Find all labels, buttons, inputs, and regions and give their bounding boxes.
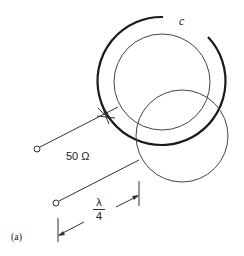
coil-label: c	[179, 15, 184, 27]
lower-loop-circle	[136, 90, 228, 182]
upper-loop-circle	[114, 34, 210, 130]
arrowhead-right-icon	[132, 195, 139, 200]
fraction-numerator: λ	[93, 197, 105, 208]
coupling-loop-arc	[98, 17, 226, 145]
antenna-diagram	[0, 0, 244, 256]
feed-line-lower	[59, 160, 139, 201]
feed-line-upper	[40, 107, 118, 147]
arrowhead-left-icon	[58, 231, 65, 236]
terminal-lower	[53, 200, 59, 206]
quarter-wavelength-label: λ 4	[93, 197, 105, 222]
fraction-denominator: 4	[93, 211, 105, 222]
impedance-label: 50 Ω	[66, 151, 90, 162]
terminal-upper	[34, 146, 40, 152]
panel-label: (a)	[11, 232, 22, 242]
